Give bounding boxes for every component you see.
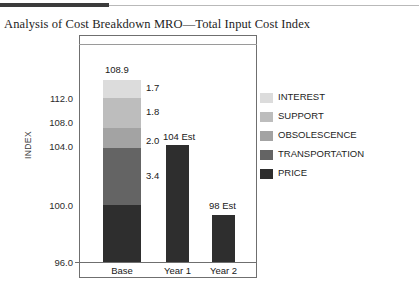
y-tick-label-108: 108.0 — [29, 117, 73, 128]
legend-swatch-obsolescence-icon — [260, 131, 273, 141]
x-category-label-base: Base — [103, 265, 141, 276]
bar-segment-support — [103, 98, 141, 128]
bar-total-label-year1: 104 Est — [163, 131, 195, 142]
bar-year2 — [212, 215, 235, 262]
bar-segment-transportation — [103, 148, 141, 205]
legend-label-support: SUPPORT — [278, 110, 324, 121]
x-category-label-year2: Year 2 — [201, 265, 246, 276]
legend-label-obsolescence: OBSOLESCENCE — [278, 129, 357, 140]
plot-top-divider — [79, 44, 257, 45]
y-tick-label-104: 104.0 — [29, 141, 73, 152]
segment-value-interest: 1.7 — [146, 82, 159, 93]
segment-value-support: 1.8 — [146, 106, 159, 117]
legend-swatch-price-icon — [260, 169, 273, 179]
legend-label-transportation: TRANSPORTATION — [278, 148, 364, 159]
legend-swatch-interest-icon — [260, 93, 273, 103]
header-rule-thin — [109, 5, 419, 6]
bar-segment-price — [103, 205, 141, 262]
segment-value-transportation: 3.4 — [146, 170, 159, 181]
header-rule-thick — [0, 3, 109, 7]
y-tick-label-100: 100.0 — [29, 200, 73, 211]
chart-screenshot: Analysis of Cost Breakdown MRO—Total Inp… — [0, 0, 419, 286]
bar-segment-interest — [103, 80, 141, 98]
bar-total-label-year2: 98 Est — [209, 200, 236, 211]
bar-year1 — [166, 145, 189, 262]
x-category-label-year1: Year 1 — [155, 265, 200, 276]
segment-value-obsolescence: 2.0 — [146, 135, 159, 146]
legend-label-price: PRICE — [278, 167, 307, 178]
x-axis-baseline — [79, 262, 257, 263]
legend-swatch-transportation-icon — [260, 150, 273, 160]
page-title: Analysis of Cost Breakdown MRO—Total Inp… — [4, 17, 310, 32]
y-tick-label-112: 112.0 — [29, 93, 73, 104]
legend-label-interest: INTEREST — [278, 91, 325, 102]
bar-segment-obsolescence — [103, 128, 141, 148]
legend-swatch-support-icon — [260, 112, 273, 122]
bar-total-label-base: 108.9 — [105, 64, 129, 75]
y-tick-label-96: 96.0 — [29, 257, 73, 268]
